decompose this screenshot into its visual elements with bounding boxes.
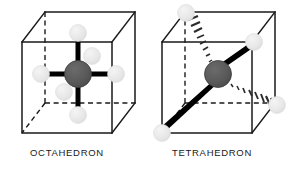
tetrahedron-panel xyxy=(154,5,286,142)
ligand-back-upper-atom xyxy=(84,48,101,65)
central-atom-tetrahedron xyxy=(205,61,232,88)
bond-wedge-front-bottom-left xyxy=(161,79,219,131)
ligand-front-top-right-atom xyxy=(246,34,263,51)
ligand-back-bottom-right-atom xyxy=(269,97,286,114)
octahedron-panel xyxy=(22,12,135,133)
ligand-back-top-left-atom xyxy=(178,5,195,22)
ligand-down-atom xyxy=(70,107,87,124)
caption-octahedron: OCTAHEDRON xyxy=(30,147,104,158)
bond-hashed-back-top-left xyxy=(188,16,212,62)
ligand-front-bottom-left-atom xyxy=(154,125,171,142)
caption-tetrahedron: TETRAHEDRON xyxy=(172,147,252,158)
figure-canvas: OCTAHEDRON TETRAHEDRON xyxy=(0,0,290,171)
ligand-up-atom xyxy=(70,25,87,42)
central-atom-octahedron xyxy=(65,61,92,88)
ligand-front-lower-atom xyxy=(56,84,73,101)
ligand-right-atom xyxy=(108,66,125,83)
ligand-left-atom xyxy=(33,66,50,83)
coordination-geometry-diagram xyxy=(0,0,290,171)
